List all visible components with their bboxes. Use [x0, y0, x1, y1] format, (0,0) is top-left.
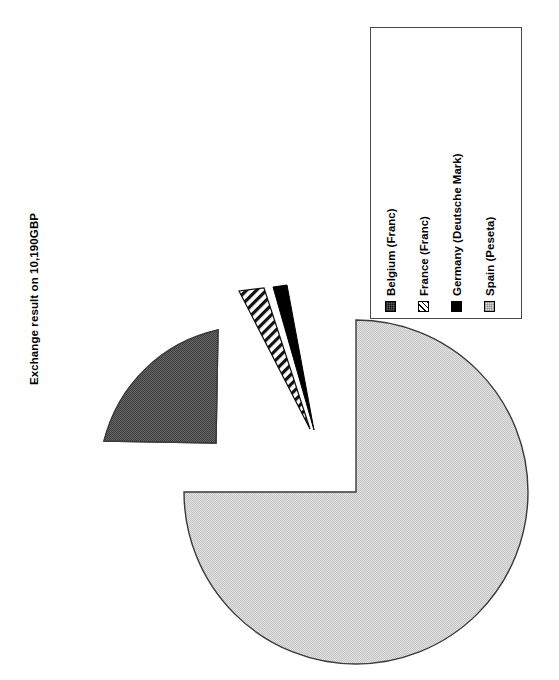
legend-label-spain: Spain (Peseta): [485, 217, 496, 296]
legend-item-spain[interactable]: Spain (Peseta): [482, 32, 498, 312]
legend-label-belgium: Belgium (Franc): [386, 208, 397, 296]
legend-swatch-belgium-icon: [385, 301, 396, 312]
pie-slice-belgium-body[interactable]: [104, 330, 218, 443]
legend-item-germany[interactable]: Germany (Deutsche Mark): [449, 32, 465, 312]
pie-chart-figure: Exchange result on 10,190GBP: [0, 0, 559, 680]
legend-swatch-germany-icon: [451, 301, 462, 312]
pie-slice-spain[interactable]: [184, 320, 528, 664]
legend: Belgium (Franc) France (Franc) Germany (…: [370, 27, 522, 319]
legend-swatch-france-icon: [418, 301, 429, 312]
legend-label-germany: Germany (Deutsche Mark): [452, 153, 463, 296]
legend-item-belgium[interactable]: Belgium (Franc): [383, 32, 399, 312]
legend-swatch-spain-icon: [484, 301, 495, 312]
legend-item-france[interactable]: France (Franc): [416, 32, 432, 312]
legend-label-france: France (Franc): [419, 216, 430, 296]
